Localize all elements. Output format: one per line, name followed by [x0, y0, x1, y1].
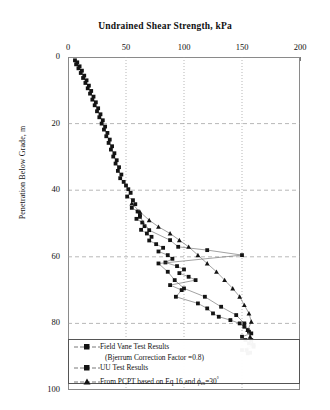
y-tick-label-40: 40 [30, 184, 60, 194]
legend-marker-square-icon-2 [74, 363, 100, 373]
degree-symbol: ° [217, 376, 219, 382]
series-0 [73, 58, 255, 354]
y-tick-label-0: 0 [30, 51, 60, 61]
chart-title: Undrained Shear Strength, kPa [0, 21, 330, 31]
legend-label-field-vane: Field Vane Test Results [100, 342, 169, 351]
chart-container: Undrained Shear Strength, kPa Penetratio… [0, 0, 330, 410]
legend-marker-triangle-icon [74, 377, 100, 387]
legend-entry-bjerrum-note: (Bjerrum Correction Factor =0.8) [69, 353, 299, 364]
series-1 [138, 215, 255, 355]
legend-entry-field-vane: Field Vane Test Results [69, 342, 299, 353]
legend-label-pcpt: From PCPT based on Eq 16 and [100, 377, 197, 386]
legend-entry-uu-test: UU Test Results [69, 363, 299, 374]
x-tick-label-100: 100 [169, 42, 199, 52]
y-tick-label-20: 20 [30, 118, 60, 128]
x-tick-label-200: 200 [285, 42, 315, 52]
y-tick-label-60: 60 [30, 251, 60, 261]
legend-label-uu-test: UU Test Results [100, 363, 148, 372]
x-tick-label-150: 150 [227, 42, 257, 52]
chart-legend: Field Vane Test Results (Bjerrum Correct… [68, 339, 300, 384]
legend-entry-pcpt: From PCPT based on Eq 16 and ϕcs=30° [69, 374, 299, 385]
y-tick-label-100: 100 [30, 384, 60, 394]
y-tick-label-80: 80 [30, 317, 60, 327]
legend-label-bjerrum-note: (Bjerrum Correction Factor =0.8) [105, 353, 204, 362]
x-tick-label-50: 50 [111, 42, 141, 52]
phi-value: =30 [205, 377, 217, 386]
y-axis-title: Penetration Below Grade, m [18, 88, 27, 258]
x-tick-mark-200 [300, 57, 301, 61]
legend-marker-square-icon [74, 342, 100, 352]
